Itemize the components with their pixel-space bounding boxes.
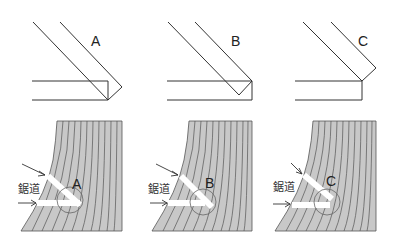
joint-label-a: A: [91, 33, 101, 49]
kerf-label-a: 鋸道: [18, 182, 40, 196]
kerf-label-b: 鋸道: [148, 182, 170, 196]
joint-diagram-a: A: [32, 22, 122, 100]
diagram-canvas: A B C: [0, 0, 396, 244]
wood-label-c: C: [326, 173, 336, 189]
kerf-label-c: 鋸道: [273, 180, 295, 194]
wood-label-b: B: [205, 175, 214, 191]
joint-diagram-c: C: [295, 22, 376, 100]
wood-section-b: B 鋸道: [148, 121, 252, 231]
joint-label-c: C: [358, 33, 368, 49]
joint-label-b: B: [231, 33, 240, 49]
wood-section-c: C 鋸道: [273, 121, 376, 231]
wood-label-a: A: [72, 176, 82, 192]
wood-section-a: A 鋸道: [18, 121, 122, 231]
joint-diagram-b: B: [167, 22, 252, 100]
